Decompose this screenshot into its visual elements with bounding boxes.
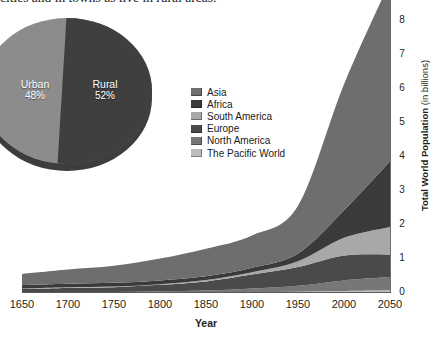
y-axis-tick-label: 8 xyxy=(395,15,409,25)
y-axis-ticks: 012345678 xyxy=(393,0,409,293)
chart-legend: AsiaAfricaSouth AmericaEuropeNorth Ameri… xyxy=(191,86,311,159)
x-axis-title: Year xyxy=(0,317,412,329)
legend-item-the-pacific-world[interactable]: The Pacific World xyxy=(191,147,311,159)
legend-swatch-icon xyxy=(191,112,202,120)
legend-item-label: The Pacific World xyxy=(207,148,285,159)
legend-swatch-icon xyxy=(191,137,202,145)
legend-item-label: Asia xyxy=(207,87,226,98)
x-axis-tick-label: 1750 xyxy=(91,298,137,311)
world-population-area-chart: 012345678 Total World Population (in bil… xyxy=(0,0,440,339)
x-axis-tick-label: 2000 xyxy=(321,298,367,311)
x-axis-tick-label: 2050 xyxy=(367,298,413,311)
x-axis-tick-label: 1900 xyxy=(229,298,275,311)
legend-item-south-america[interactable]: South America xyxy=(191,110,311,122)
y-axis-tick-label: 1 xyxy=(395,253,409,263)
x-axis-line xyxy=(22,292,391,293)
legend-swatch-icon xyxy=(191,125,202,133)
legend-swatch-icon xyxy=(191,149,202,157)
legend-swatch-icon xyxy=(191,100,202,108)
y-axis-tick-label: 2 xyxy=(395,219,409,229)
y-axis-title-units: (in billions) xyxy=(419,60,430,108)
x-axis-tick-label: 1650 xyxy=(0,298,45,311)
legend-item-label: North America xyxy=(207,135,270,146)
y-axis-tick-label: 0 xyxy=(395,287,409,297)
legend-item-label: Europe xyxy=(207,123,239,134)
legend-item-north-america[interactable]: North America xyxy=(191,135,311,147)
x-axis-ticks: 165017001750180018501900195020002050 xyxy=(0,298,440,314)
legend-item-europe[interactable]: Europe xyxy=(191,123,311,135)
y-axis-tick-label: 7 xyxy=(395,49,409,59)
x-axis-tick-label: 1800 xyxy=(137,298,183,311)
x-axis-tick-label: 1850 xyxy=(183,298,229,311)
legend-item-africa[interactable]: Africa xyxy=(191,98,311,110)
y-axis-tick-label: 4 xyxy=(395,151,409,161)
legend-item-label: Africa xyxy=(207,99,233,110)
y-axis-title: Total World Population (in billions) xyxy=(408,0,424,293)
x-axis-tick-label: 1950 xyxy=(275,298,321,311)
legend-item-asia[interactable]: Asia xyxy=(191,86,311,98)
y-axis-title-bold: Total World Population xyxy=(419,108,430,211)
legend-item-label: South America xyxy=(207,111,272,122)
y-axis-tick-label: 3 xyxy=(395,185,409,195)
y-axis-tick-label: 6 xyxy=(395,83,409,93)
x-axis-tick-label: 1700 xyxy=(45,298,91,311)
legend-swatch-icon xyxy=(191,88,202,96)
y-axis-line xyxy=(390,0,391,293)
y-axis-tick-label: 5 xyxy=(395,117,409,127)
